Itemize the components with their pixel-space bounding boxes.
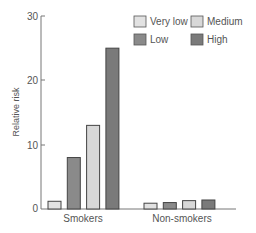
legend-swatch-medium <box>191 16 203 27</box>
y-tick-30: 30 <box>27 11 39 22</box>
bar-chart: 30 20 10 0 Relative risk Smokers Non-smo… <box>0 0 256 233</box>
category-label-non-smokers: Non-smokers <box>152 213 211 224</box>
legend-label-high: High <box>207 34 228 45</box>
bars-group <box>48 48 215 209</box>
y-tick-20: 20 <box>27 75 39 86</box>
legend-label-low: Low <box>150 34 169 45</box>
bar-smokers-very-low <box>48 201 61 209</box>
legend-swatch-very-low <box>134 16 146 27</box>
legend-label-medium: Medium <box>207 16 243 27</box>
legend-label-very-low: Very low <box>150 16 189 27</box>
bar-non-smokers-very-low <box>144 203 157 209</box>
legend-swatch-low <box>134 34 146 45</box>
legend-swatch-high <box>191 34 203 45</box>
legend: Very low Medium Low High <box>134 16 243 45</box>
y-tick-0: 0 <box>32 203 38 214</box>
bar-non-smokers-medium <box>183 201 196 209</box>
y-tick-10: 10 <box>27 140 39 151</box>
category-label-smokers: Smokers <box>63 213 102 224</box>
bar-smokers-low <box>67 158 80 209</box>
bar-smokers-medium <box>87 125 100 209</box>
bar-non-smokers-low <box>163 203 176 209</box>
bar-non-smokers-high <box>202 200 215 209</box>
y-axis-label: Relative risk <box>11 87 21 137</box>
bar-smokers-high <box>106 48 119 209</box>
